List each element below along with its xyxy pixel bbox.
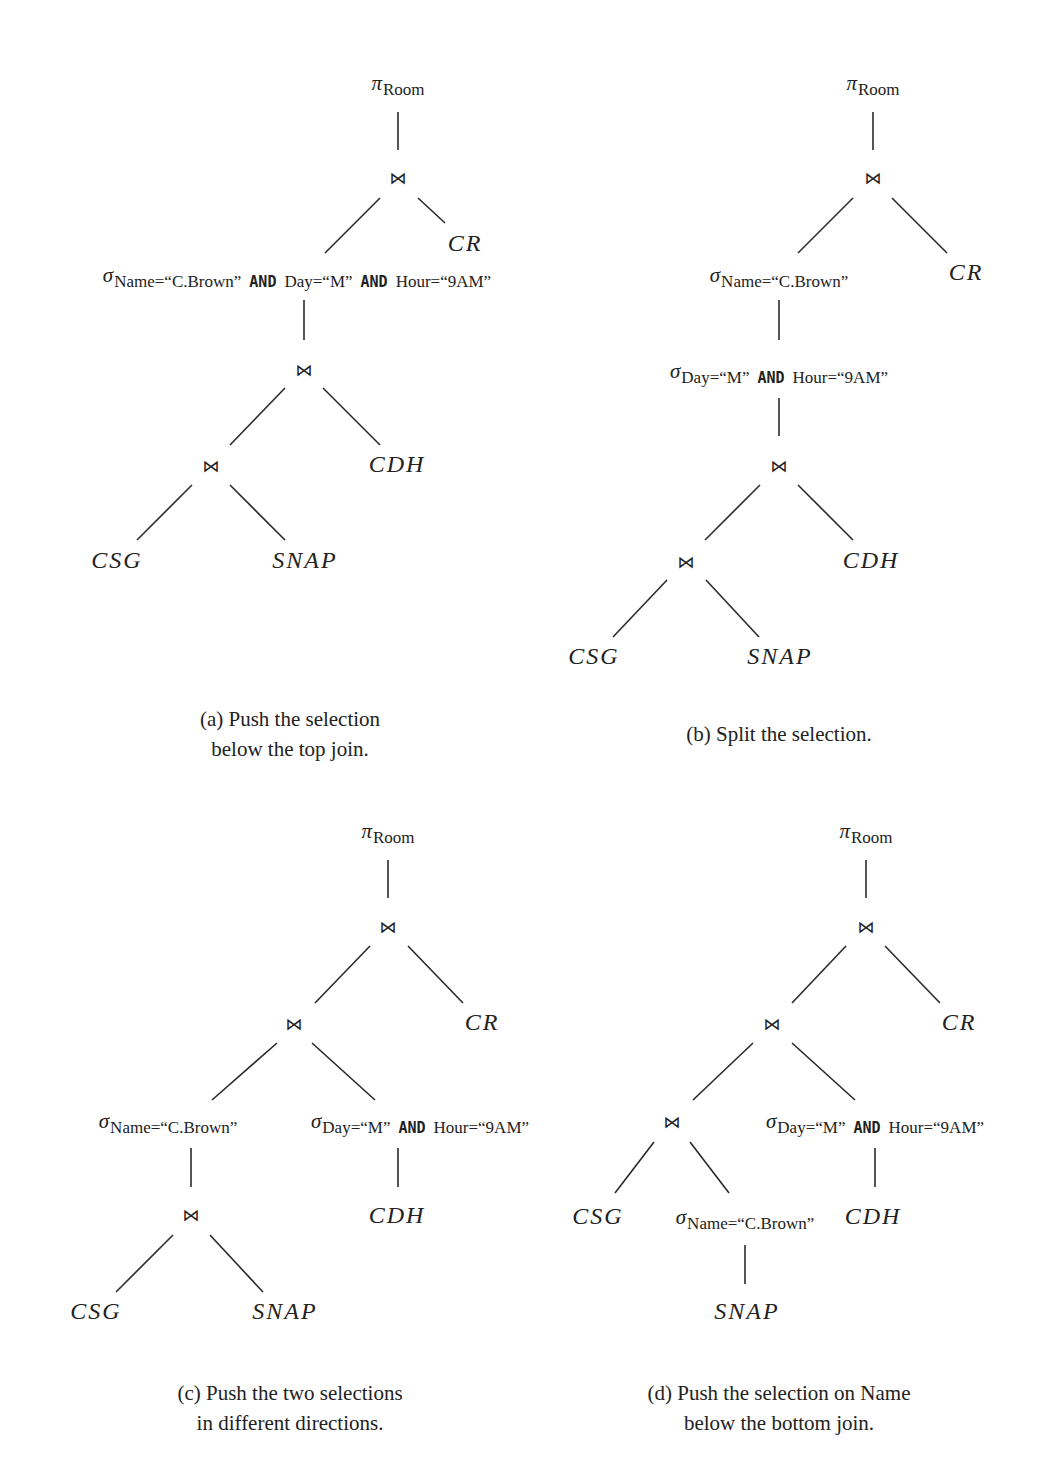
relation-cdh: CDH	[369, 1203, 426, 1227]
join-icon: ⋈	[678, 554, 695, 571]
pi-icon: π	[371, 71, 382, 95]
selection-node-day-hour: σDay=“M”ANDHour=“9AM”	[670, 366, 888, 387]
join-icon: ⋈	[296, 362, 313, 379]
projection-node: πRoom	[361, 826, 414, 847]
join-icon: ⋈	[764, 1016, 781, 1033]
relation-cdh: CDH	[845, 1204, 902, 1228]
projection-node: πRoom	[371, 78, 424, 99]
relation-cr: CR	[942, 1010, 977, 1034]
selection-node: σName=“C.Brown”ANDDay=“M”ANDHour=“9AM”	[103, 270, 491, 291]
selection-node-day-hour: σDay=“M”ANDHour=“9AM”	[311, 1116, 529, 1137]
pi-icon: π	[361, 819, 372, 843]
sigma-icon: σ	[99, 1109, 109, 1133]
join-icon: ⋈	[858, 919, 875, 936]
caption-a: (a) Push the selection below the top joi…	[200, 704, 380, 764]
sigma-icon: σ	[311, 1109, 321, 1133]
sigma-icon: σ	[670, 359, 680, 383]
pi-icon: π	[846, 71, 857, 95]
join-icon: ⋈	[380, 919, 397, 936]
join-icon: ⋈	[203, 458, 220, 475]
relation-cr: CR	[465, 1010, 500, 1034]
relation-csg: CSG	[70, 1299, 121, 1323]
relation-csg: CSG	[568, 644, 619, 668]
relation-snap: SNAP	[747, 644, 812, 668]
join-icon: ⋈	[865, 170, 882, 187]
selection-node-day-hour: σDay=“M”ANDHour=“9AM”	[766, 1116, 984, 1137]
relation-snap: SNAP	[252, 1299, 317, 1323]
relation-cr: CR	[448, 231, 483, 255]
join-icon: ⋈	[183, 1207, 200, 1224]
relation-cr: CR	[949, 260, 984, 284]
relation-cdh: CDH	[843, 548, 900, 572]
selection-node-name: σName=“C.Brown”	[710, 270, 849, 291]
projection-node: πRoom	[846, 78, 899, 99]
sigma-icon: σ	[766, 1109, 776, 1133]
sigma-icon: σ	[103, 263, 113, 287]
relation-csg: CSG	[572, 1204, 623, 1228]
relation-csg: CSG	[91, 548, 142, 572]
selection-node-name: σName=“C.Brown”	[676, 1212, 815, 1233]
projection-node: πRoom	[839, 826, 892, 847]
relation-snap: SNAP	[714, 1299, 779, 1323]
pi-icon: π	[839, 819, 850, 843]
join-icon: ⋈	[390, 170, 407, 187]
sigma-icon: σ	[676, 1205, 686, 1229]
caption-b: (b) Split the selection.	[686, 719, 871, 749]
selection-node-name: σName=“C.Brown”	[99, 1116, 238, 1137]
caption-d: (d) Push the selection on Name below the…	[647, 1378, 910, 1438]
caption-c: (c) Push the two selections in different…	[177, 1378, 402, 1438]
join-icon: ⋈	[286, 1016, 303, 1033]
join-icon: ⋈	[771, 458, 788, 475]
join-icon: ⋈	[664, 1114, 681, 1131]
sigma-icon: σ	[710, 263, 720, 287]
relation-snap: SNAP	[272, 548, 337, 572]
relation-cdh: CDH	[369, 452, 426, 476]
tree-edges	[0, 0, 1064, 1484]
